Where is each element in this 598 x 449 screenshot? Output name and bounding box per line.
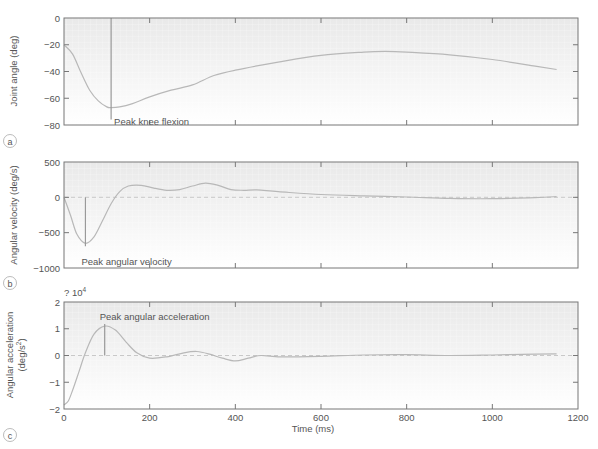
panel-a-label: a <box>7 137 12 147</box>
y-tick-label: 0 <box>55 13 60 24</box>
peak-angular-velocity-label: Peak angular velocity <box>81 256 172 267</box>
y-tick-label: 500 <box>44 157 60 168</box>
y-tick-label: −1 <box>49 377 60 388</box>
x-tick-label: 200 <box>142 412 158 423</box>
panel-a-ylabel: Joint angle (deg) <box>8 36 19 107</box>
panel-b-ylabel: Angular velocity (deg/s) <box>8 165 19 264</box>
panel-c-label: c <box>8 431 13 441</box>
y-tick-label: 2 <box>55 297 60 308</box>
panel-b: 5000−500−1000 Peak angular velocity Angu… <box>4 157 579 290</box>
y-tick-label: −1000 <box>33 263 60 274</box>
x-tick-label: 600 <box>313 412 329 423</box>
x-axis-title: Time (ms) <box>292 423 334 434</box>
y-tick-label: −40 <box>44 66 60 77</box>
panel-b-badge: b <box>4 277 17 290</box>
y-tick-label: −500 <box>39 227 60 238</box>
x-tick-label: 1200 <box>567 412 588 423</box>
y-tick-label: −60 <box>44 93 60 104</box>
x-tick-label: 400 <box>227 412 243 423</box>
x-tick-labels: 020040060080010001200 <box>61 412 588 423</box>
x-tick-label: 1000 <box>482 412 503 423</box>
biomechanics-figure: 0−20−40−60−80 Peak knee flexion Joint an… <box>0 0 598 449</box>
y-tick-label: 0 <box>55 192 60 203</box>
panel-c: 210−1−2 Peak angular acceleration ? 104 … <box>4 286 589 442</box>
y-tick-label: −80 <box>44 120 60 131</box>
x-tick-label: 0 <box>61 412 66 423</box>
panel-a: 0−20−40−60−80 Peak knee flexion Joint an… <box>4 13 579 148</box>
x-tick-label: 800 <box>399 412 415 423</box>
y-tick-label: 1 <box>55 323 60 334</box>
y-multiplier: ? 104 <box>64 286 87 298</box>
svg-text:(deg/s2): (deg/s2) <box>15 338 27 371</box>
peak-angular-acceleration-label: Peak angular acceleration <box>100 311 210 322</box>
y-tick-label: −20 <box>44 39 60 50</box>
panel-c-badge: c <box>4 429 17 442</box>
panel-a-badge: a <box>4 135 17 148</box>
svg-text:Angular acceleration: Angular acceleration <box>4 312 15 399</box>
panel-c-ylabel: Angular acceleration (deg/s2) <box>4 312 27 399</box>
y-tick-label: −2 <box>49 404 60 415</box>
y-tick-label: 0 <box>55 350 60 361</box>
panel-b-label: b <box>7 279 12 289</box>
